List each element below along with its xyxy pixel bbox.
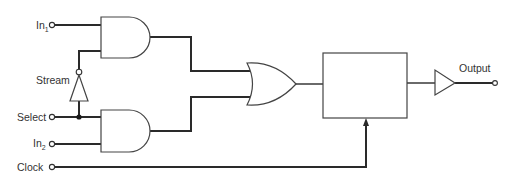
in1-label: In1 bbox=[36, 19, 49, 33]
and-gate-bottom bbox=[101, 110, 150, 152]
stream-label: Stream bbox=[36, 74, 70, 86]
clocked-block bbox=[323, 53, 407, 118]
and-top-to-or-wire bbox=[150, 37, 252, 71]
junction-dot bbox=[76, 114, 81, 119]
logic-diagram: In1 Stream Select In2 Clock Output bbox=[0, 0, 513, 181]
in2-terminal[interactable] bbox=[49, 141, 54, 146]
output-label: Output bbox=[459, 62, 491, 74]
clock-label: Clock bbox=[17, 161, 44, 173]
output-terminal[interactable] bbox=[493, 81, 498, 86]
inverter-bubble bbox=[76, 69, 82, 75]
clock-arrow-icon bbox=[363, 118, 369, 126]
output-buffer bbox=[435, 70, 455, 95]
or-gate bbox=[247, 63, 296, 105]
in2-label: In2 bbox=[33, 137, 46, 151]
clock-terminal[interactable] bbox=[49, 164, 54, 169]
select-terminal[interactable] bbox=[49, 114, 54, 119]
and-gate-top bbox=[101, 17, 150, 58]
and-bottom-to-or-wire bbox=[150, 97, 252, 131]
select-label: Select bbox=[17, 111, 46, 123]
in1-terminal[interactable] bbox=[49, 22, 54, 27]
inverter-to-and-top-wire bbox=[79, 51, 101, 70]
inverter-gate bbox=[70, 75, 88, 101]
